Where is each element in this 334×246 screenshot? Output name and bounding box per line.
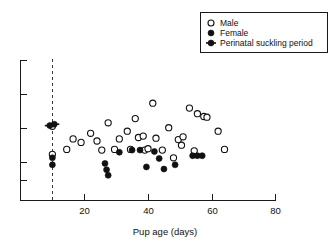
data-point: [172, 162, 178, 168]
data-point: [204, 114, 210, 120]
open-circle-icon: [208, 20, 214, 26]
legend-item-perinatal: Perinatal suckling period: [206, 38, 313, 48]
filled-circle-icon: [208, 30, 214, 36]
data-point: [143, 164, 149, 170]
data-point: [49, 162, 55, 168]
data-point: [105, 120, 111, 126]
data-point: [140, 133, 146, 139]
data-point: [104, 167, 110, 173]
data-point: [70, 136, 76, 142]
data-point: [94, 138, 100, 144]
data-point: [102, 160, 108, 166]
data-point: [64, 146, 70, 152]
data-point: [137, 147, 143, 153]
data-point: [215, 128, 221, 134]
data-point: [178, 142, 184, 148]
data-point: [161, 166, 167, 172]
scatter-plot-figure: 20 40 60 80 Pup age (days) Male Female P…: [0, 0, 334, 246]
data-point: [78, 139, 84, 145]
data-point: [151, 149, 157, 155]
data-point: [49, 155, 55, 161]
legend-label-female: Female: [220, 28, 249, 38]
x-tick-label-80: 80: [270, 205, 281, 216]
x-axis-title: Pup age (days): [133, 226, 197, 237]
perinatal-dot-icon: [208, 40, 214, 46]
data-point: [105, 172, 111, 178]
data-point: [129, 147, 135, 153]
legend-label-perinatal: Perinatal suckling period: [220, 38, 313, 48]
data-point: [186, 105, 192, 111]
data-point: [116, 136, 122, 142]
data-point: [166, 125, 172, 131]
data-point: [156, 156, 162, 162]
legend-label-male: Male: [220, 18, 239, 28]
data-point: [51, 121, 57, 127]
data-point: [199, 153, 205, 159]
data-point: [180, 134, 186, 140]
legend: Male Female Perinatal suckling period: [201, 13, 328, 53]
data-point: [88, 130, 94, 136]
x-tick-label-60: 60: [207, 205, 218, 216]
data-point: [150, 100, 156, 106]
data-point: [116, 149, 122, 155]
data-point: [159, 147, 165, 153]
data-point: [194, 111, 200, 117]
data-point: [132, 116, 138, 122]
data-point: [99, 147, 105, 153]
data-point: [153, 135, 159, 141]
data-point: [221, 146, 227, 152]
x-tick-label-40: 40: [143, 205, 154, 216]
data-point: [145, 146, 151, 152]
x-tick-label-20: 20: [79, 205, 90, 216]
data-point: [124, 128, 130, 134]
data-point: [170, 155, 176, 161]
